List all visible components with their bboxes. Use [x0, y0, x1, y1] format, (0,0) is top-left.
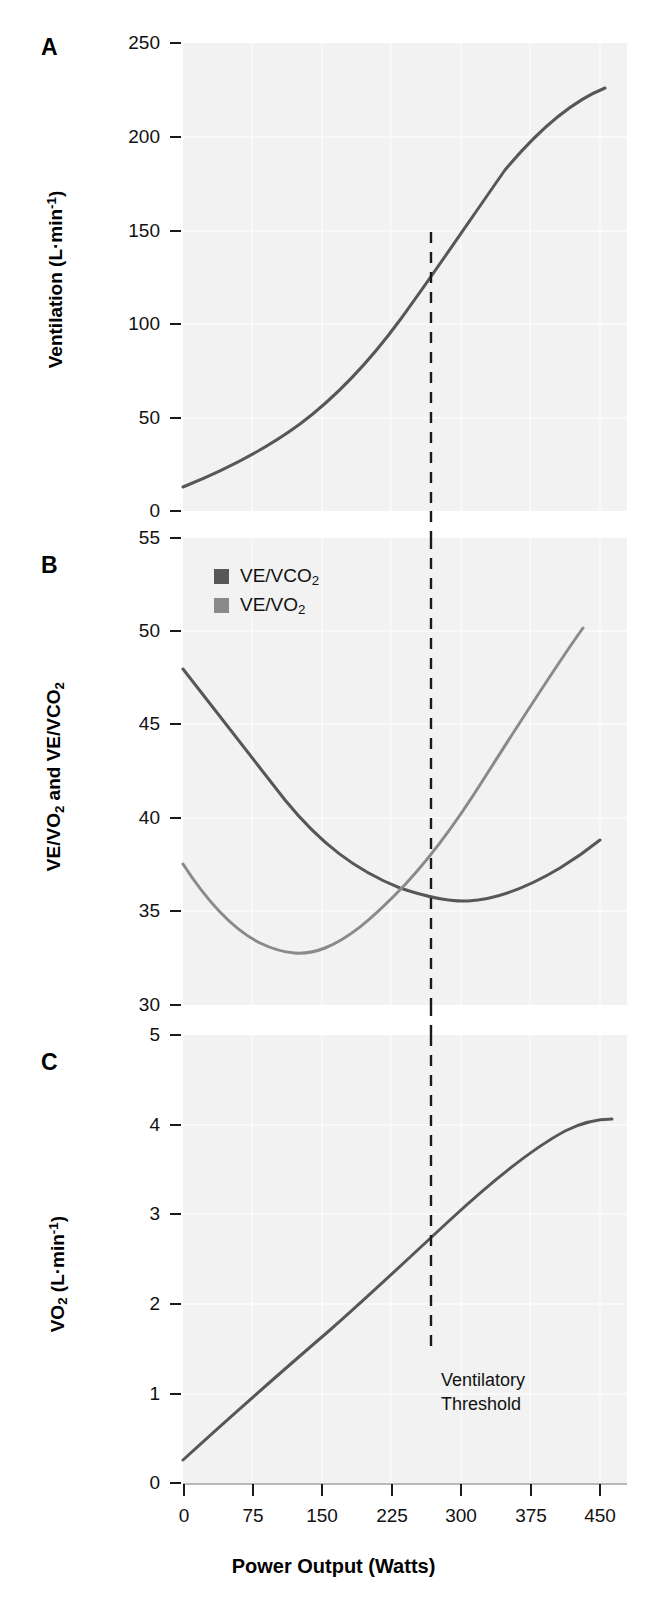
panel-c-background: [183, 1035, 627, 1483]
panel-c-ytick-5: 5: [98, 1024, 160, 1046]
panel-a-plot: [170, 43, 627, 511]
panel-b-y-ticks: [170, 538, 181, 1005]
panel-c-ytick-3: 3: [98, 1203, 160, 1225]
panel-b-ytick-45: 45: [98, 713, 160, 735]
panel-b-ytick-35: 35: [98, 900, 160, 922]
panel-b-legend: VE/VCO2 VE/VO2: [214, 566, 319, 623]
legend-item-ve-vo2: VE/VO2: [214, 595, 319, 617]
xtick-225: 225: [362, 1505, 422, 1527]
xtick-300: 300: [431, 1505, 491, 1527]
panel-c-y-axis-title: VO2 (L·min-1): [46, 1134, 70, 1414]
panel-c-ytick-1: 1: [98, 1383, 160, 1405]
panel-c-ytick-2: 2: [98, 1293, 160, 1315]
panel-b-ytick-55: 55: [98, 527, 160, 549]
panel-a-ytick-150: 150: [98, 220, 160, 242]
panel-c-y-axis-title-text: VO2 (L·min-1): [47, 1216, 68, 1332]
threshold-annotation-line1: Ventilatory: [441, 1368, 525, 1392]
xtick-0: 0: [154, 1505, 214, 1527]
panel-letter-c: C: [41, 1049, 58, 1076]
x-axis: [183, 1484, 627, 1496]
panel-a-y-axis-title: Ventilation (L·min-1): [44, 129, 67, 429]
panel-c-y-ticks: [170, 1035, 181, 1483]
panel-a-y-axis-title-text: Ventilation (L·min-1): [44, 191, 65, 369]
panel-letter-a: A: [41, 34, 58, 61]
panel-b-ytick-40: 40: [98, 807, 160, 829]
panel-c-ytick-0: 0: [98, 1472, 160, 1494]
panel-a-y-ticks: [170, 43, 181, 511]
xtick-375: 375: [501, 1505, 561, 1527]
ventilatory-threshold-annotation: Ventilatory Threshold: [441, 1368, 525, 1417]
threshold-annotation-line2: Threshold: [441, 1392, 525, 1416]
panel-a-ytick-250: 250: [98, 32, 160, 54]
x-axis-ticks: [184, 1484, 600, 1496]
legend-label-ve-vo2: VE/VO2: [240, 595, 305, 617]
panel-b-ytick-30: 30: [98, 994, 160, 1016]
panel-a-ytick-100: 100: [98, 313, 160, 335]
panel-letter-b: B: [41, 552, 58, 579]
panel-c-plot: [170, 1035, 627, 1483]
legend-swatch-ve-vo2: [214, 598, 229, 613]
xtick-75: 75: [223, 1505, 283, 1527]
figure-root: A B C Ventilation (L·min-1) VE/VO2 and V…: [0, 0, 667, 1616]
panel-c-ytick-4: 4: [98, 1114, 160, 1136]
panel-a-ytick-200: 200: [98, 126, 160, 148]
panel-b-y-axis-title: VE/VO2 and VE/VCO2: [43, 612, 66, 942]
legend-item-ve-vco2: VE/VCO2: [214, 566, 319, 588]
legend-label-ve-vco2: VE/VCO2: [240, 566, 319, 588]
panel-a-ytick-50: 50: [98, 407, 160, 429]
x-axis-title: Power Output (Watts): [0, 1555, 667, 1578]
panel-b-y-axis-title-text: VE/VO2 and VE/VCO2: [43, 682, 64, 871]
xtick-150: 150: [292, 1505, 352, 1527]
xtick-450: 450: [570, 1505, 630, 1527]
panel-a-ytick-0: 0: [98, 500, 160, 522]
legend-swatch-ve-vco2: [214, 569, 229, 584]
panel-b-ytick-50: 50: [98, 620, 160, 642]
